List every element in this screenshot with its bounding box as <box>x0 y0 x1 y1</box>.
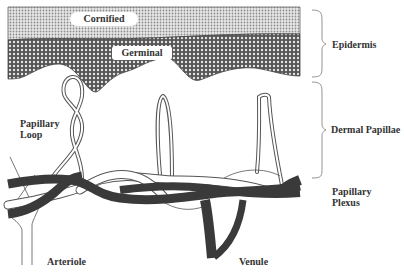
papillary-loops <box>52 77 282 185</box>
germinal-label: Germinal <box>112 46 172 60</box>
germinal-text: Germinal <box>121 47 162 58</box>
cornified-text: Cornified <box>83 13 124 24</box>
epidermis-label: Epidermis <box>332 39 376 50</box>
dermal-papillae-bracket <box>312 82 326 178</box>
dermal-papillae-label: Dermal Papillae <box>331 124 400 135</box>
germinal-layer <box>8 34 300 92</box>
epidermis-bracket <box>312 10 326 77</box>
brackets <box>312 10 326 178</box>
papillary-plexus-label: Papillary Plexus <box>332 186 371 208</box>
venule-label: Venule <box>239 256 268 267</box>
papillary-loop-label: Papillary Loop <box>20 118 59 140</box>
cornified-label: Cornified <box>70 12 138 26</box>
papillary-loop-line1: Papillary <box>20 118 59 129</box>
venule-plexus <box>8 176 300 258</box>
papillary-plexus-line2: Plexus <box>332 197 371 208</box>
arteriole-label: Arteriole <box>47 256 86 267</box>
papillary-loop-line2: Loop <box>20 129 59 140</box>
papillary-plexus-line1: Papillary <box>332 186 371 197</box>
